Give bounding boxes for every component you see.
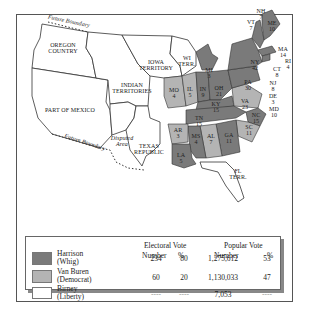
legend-birney-label: Birney(Liberty) — [57, 285, 84, 300]
label-oregon-country: OREGON COUNTRY — [43, 42, 83, 54]
harrison-pop-pct: 53 — [260, 254, 274, 263]
legend-harrison-label: Harrison(Whig) — [57, 250, 83, 265]
label-state-md: MD10 — [266, 106, 282, 118]
label-state-me: ME10 — [264, 20, 280, 32]
van-buren-pop-pct: 47 — [260, 273, 274, 282]
popular-vote-header: Popular Vote — [224, 241, 263, 250]
label-state-ny: NY42 — [248, 59, 262, 71]
van-buren-ev-number: 60 — [145, 273, 167, 282]
label-state-tn: TN15 — [192, 115, 206, 127]
swatch-harrison — [32, 252, 52, 265]
label-part-of-mexico: PART OF MEXICO — [40, 107, 100, 113]
label-state-al: AL7 — [204, 133, 218, 145]
label-state-nc: NC15 — [249, 112, 263, 124]
label-state-la: LA5 — [174, 152, 188, 164]
swatch-birney — [32, 287, 52, 299]
birney-ev-number: ---- — [145, 290, 167, 299]
legend-van-buren-label: Van Buren(Democrat) — [57, 268, 92, 283]
label-state-ga: GA11 — [222, 132, 236, 144]
harrison-ev-pct: 80 — [177, 254, 191, 263]
label-iowa-territory: IOWA TERRITORY — [134, 59, 178, 71]
label-state-vt: VT7 — [244, 19, 258, 31]
label-florida-territory: FL TERR. — [228, 168, 248, 180]
label-state-mo: MO4 — [165, 87, 183, 99]
label-state-nj: NJ8 — [266, 80, 280, 92]
label-wi-territory: WI TERR. — [176, 55, 198, 67]
label-state-ms: MS4 — [189, 133, 203, 145]
label-state-ar: AR3 — [171, 127, 185, 139]
label-state-de: DE3 — [266, 93, 280, 105]
birney-pop-number: 7,053 — [203, 290, 243, 299]
label-state-va: VA23 — [237, 98, 253, 110]
birney-ev-pct: ---- — [177, 290, 191, 299]
label-state-ky: KY15 — [208, 101, 224, 113]
label-state-ma: MA14 — [275, 46, 291, 58]
label-state-pa: PA30 — [240, 79, 256, 91]
label-state-in: IN9 — [197, 86, 209, 98]
label-disputed-area: Disputed Area — [108, 135, 136, 147]
van-buren-pop-number: 1,130,033 — [203, 273, 243, 282]
label-state-sc: SC11 — [242, 124, 256, 136]
van-buren-ev-pct: 20 — [177, 273, 191, 282]
label-state-oh: OH21 — [210, 85, 228, 97]
birney-pop-pct: ---- — [260, 290, 274, 299]
electoral-vote-header: Electoral Vote — [144, 241, 186, 250]
label-texas-republic: TEXAS REPUBLIC — [134, 143, 164, 155]
label-state-mi: MI3 — [203, 67, 215, 79]
label-state-il: IL5 — [183, 86, 197, 98]
harrison-ev-number: 234 — [145, 254, 167, 263]
harrison-pop-number: 1,275,612 — [203, 254, 243, 263]
label-state-ct: CT8 — [270, 66, 284, 78]
swatch-van-buren — [32, 270, 52, 283]
label-indian-territories: INDIAN TERRITORIES — [110, 82, 154, 94]
